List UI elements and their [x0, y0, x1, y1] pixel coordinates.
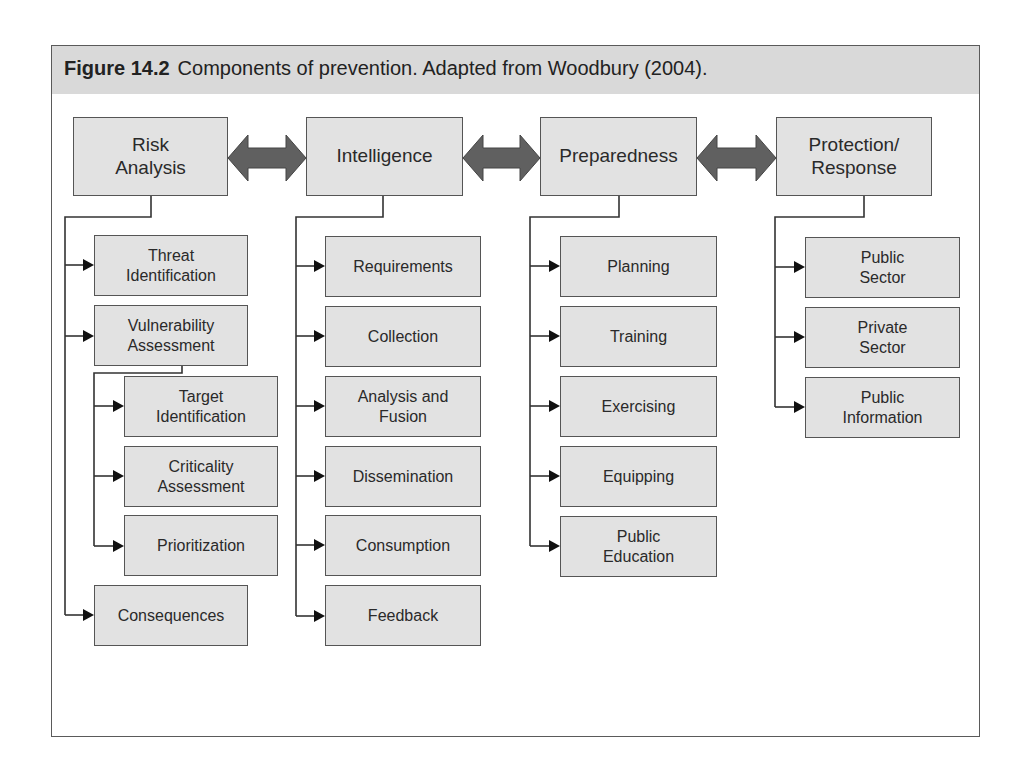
node-public-information: Public Information: [805, 377, 960, 438]
node-public-education: Public Education: [560, 516, 717, 577]
node-dissemination: Dissemination: [325, 446, 481, 507]
node-prioritization: Prioritization: [124, 515, 278, 576]
node-feedback: Feedback: [325, 585, 481, 646]
node-target-identification: Target Identification: [124, 376, 278, 437]
node-consequences: Consequences: [94, 585, 248, 646]
node-exercising: Exercising: [560, 376, 717, 437]
node-consumption: Consumption: [325, 515, 481, 576]
node-risk-analysis: Risk Analysis: [73, 117, 228, 196]
node-equipping: Equipping: [560, 446, 717, 507]
node-threat-identification: Threat Identification: [94, 235, 248, 296]
node-private-sector: Private Sector: [805, 307, 960, 368]
figure-number: Figure 14.2: [64, 57, 170, 79]
node-criticality-assessment: Criticality Assessment: [124, 446, 278, 507]
caption-band: Figure 14.2Components of prevention. Ada…: [52, 46, 979, 94]
node-requirements: Requirements: [325, 236, 481, 297]
node-planning: Planning: [560, 236, 717, 297]
node-collection: Collection: [325, 306, 481, 367]
node-analysis-and-fusion: Analysis and Fusion: [325, 376, 481, 437]
figure-caption: Figure 14.2Components of prevention. Ada…: [64, 57, 708, 80]
node-preparedness: Preparedness: [540, 117, 697, 196]
node-vulnerability-assessment: Vulnerability Assessment: [94, 305, 248, 366]
node-protection-response: Protection/ Response: [776, 117, 932, 196]
figure-caption-text: Components of prevention. Adapted from W…: [178, 57, 708, 79]
node-public-sector: Public Sector: [805, 237, 960, 298]
node-training: Training: [560, 306, 717, 367]
node-intelligence: Intelligence: [306, 117, 463, 196]
